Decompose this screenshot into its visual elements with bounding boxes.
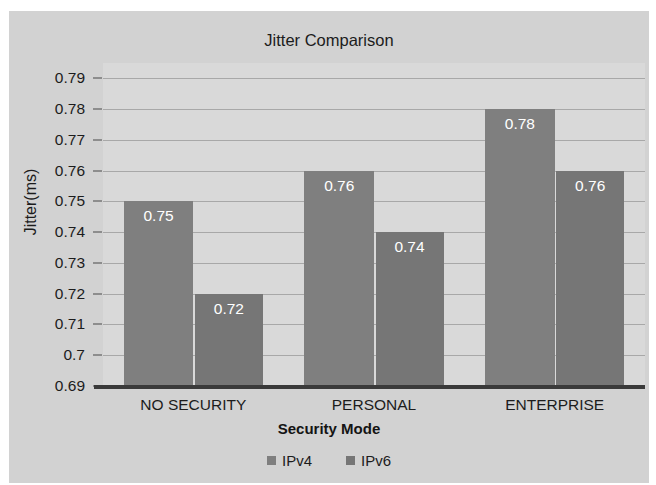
y-tick-mark (93, 293, 102, 295)
bar-value-label: 0.76 (556, 178, 624, 194)
y-tick-mark (93, 200, 102, 202)
bar-ipv6-personal[interactable]: 0.74 (376, 232, 444, 386)
y-tick-mark (93, 354, 102, 356)
chart-legend: IPv4IPv6 (9, 453, 649, 468)
bar-value-label: 0.76 (304, 178, 374, 194)
bar-value-label: 0.78 (485, 116, 555, 132)
y-tick-label: 0.69 (9, 378, 85, 394)
y-tick-label: 0.7 (9, 347, 85, 363)
y-tick-mark (93, 77, 102, 79)
legend-item-ipv4[interactable]: IPv4 (267, 453, 312, 468)
bar-ipv4-enterprise[interactable]: 0.78 (485, 109, 555, 386)
legend-label: IPv6 (361, 453, 391, 468)
legend-item-ipv6[interactable]: IPv6 (346, 453, 391, 468)
y-tick-label: 0.75 (9, 193, 85, 209)
gridline (103, 140, 645, 141)
bar-value-label: 0.75 (124, 208, 194, 224)
legend-swatch-icon (346, 456, 355, 465)
y-tick-label: 0.72 (9, 286, 85, 302)
y-tick-mark (93, 139, 102, 141)
y-tick-label: 0.76 (9, 163, 85, 179)
y-tick-label: 0.71 (9, 316, 85, 332)
y-tick-mark (93, 108, 102, 110)
x-category-label-enterprise: ENTERPRISE (464, 396, 645, 414)
y-tick-label: 0.78 (9, 101, 85, 117)
bar-ipv4-personal[interactable]: 0.76 (304, 171, 374, 386)
x-category-label-no-security: NO SECURITY (103, 396, 284, 414)
x-category-label-personal: PERSONAL (284, 396, 465, 414)
y-tick-label: 0.73 (9, 255, 85, 271)
chart-title: Jitter Comparison (9, 31, 649, 50)
plot-area: 0.750.720.760.740.780.76 (103, 63, 645, 386)
y-tick-label: 0.74 (9, 224, 85, 240)
y-tick-label: 0.77 (9, 132, 85, 148)
chart-figure: Jitter Comparison Jitter(ms) 0.750.720.7… (9, 11, 649, 483)
y-tick-label: 0.79 (9, 70, 85, 86)
bar-ipv6-no-security[interactable]: 0.72 (195, 294, 263, 386)
gridline (103, 78, 645, 79)
legend-swatch-icon (267, 456, 276, 465)
bar-ipv4-no-security[interactable]: 0.75 (124, 201, 194, 386)
x-axis-line (94, 385, 645, 389)
legend-label: IPv4 (282, 453, 312, 468)
bar-value-label: 0.74 (376, 239, 444, 255)
x-axis-title: Security Mode (9, 420, 649, 437)
y-tick-mark (93, 323, 102, 325)
y-tick-mark (93, 170, 102, 172)
y-tick-mark (93, 262, 102, 264)
gridline (103, 109, 645, 110)
bar-value-label: 0.72 (195, 301, 263, 317)
y-tick-mark (93, 231, 102, 233)
bar-ipv6-enterprise[interactable]: 0.76 (556, 171, 624, 386)
